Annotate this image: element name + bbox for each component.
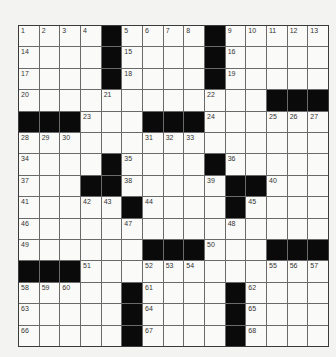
answer-cell[interactable]: 24 (205, 112, 225, 132)
answer-cell[interactable] (164, 219, 184, 239)
answer-cell[interactable] (40, 69, 60, 89)
answer-cell[interactable] (40, 47, 60, 67)
answer-cell[interactable] (205, 133, 225, 153)
answer-cell[interactable] (205, 326, 225, 346)
answer-cell[interactable]: 19 (226, 69, 246, 89)
answer-cell[interactable] (267, 197, 287, 217)
answer-cell[interactable] (81, 283, 101, 303)
answer-cell[interactable] (246, 219, 266, 239)
answer-cell[interactable]: 22 (205, 90, 225, 110)
answer-cell[interactable] (102, 240, 122, 260)
answer-cell[interactable] (267, 133, 287, 153)
answer-cell[interactable]: 25 (267, 112, 287, 132)
answer-cell[interactable] (60, 240, 80, 260)
answer-cell[interactable]: 20 (19, 90, 39, 110)
answer-cell[interactable] (288, 176, 308, 196)
answer-cell[interactable]: 38 (122, 176, 142, 196)
answer-cell[interactable] (81, 69, 101, 89)
answer-cell[interactable]: 50 (205, 240, 225, 260)
answer-cell[interactable]: 41 (19, 197, 39, 217)
answer-cell[interactable]: 55 (267, 261, 287, 281)
answer-cell[interactable] (81, 90, 101, 110)
answer-cell[interactable] (40, 197, 60, 217)
answer-cell[interactable] (164, 283, 184, 303)
answer-cell[interactable] (267, 47, 287, 67)
answer-cell[interactable] (267, 69, 287, 89)
answer-cell[interactable]: 18 (122, 69, 142, 89)
answer-cell[interactable]: 23 (81, 112, 101, 132)
answer-cell[interactable] (226, 112, 246, 132)
answer-cell[interactable] (143, 154, 163, 174)
answer-cell[interactable] (143, 69, 163, 89)
answer-cell[interactable]: 7 (164, 26, 184, 46)
answer-cell[interactable] (184, 154, 204, 174)
answer-cell[interactable] (102, 261, 122, 281)
answer-cell[interactable]: 6 (143, 26, 163, 46)
answer-cell[interactable] (40, 326, 60, 346)
answer-cell[interactable]: 59 (40, 283, 60, 303)
answer-cell[interactable] (122, 240, 142, 260)
answer-cell[interactable]: 15 (122, 47, 142, 67)
answer-cell[interactable] (40, 154, 60, 174)
answer-cell[interactable] (81, 133, 101, 153)
answer-cell[interactable]: 16 (226, 47, 246, 67)
answer-cell[interactable] (164, 47, 184, 67)
answer-cell[interactable] (246, 261, 266, 281)
answer-cell[interactable] (267, 304, 287, 324)
answer-cell[interactable]: 45 (246, 197, 266, 217)
answer-cell[interactable] (308, 154, 328, 174)
answer-cell[interactable] (246, 47, 266, 67)
answer-cell[interactable] (267, 326, 287, 346)
answer-cell[interactable] (205, 304, 225, 324)
answer-cell[interactable] (40, 240, 60, 260)
answer-cell[interactable]: 40 (267, 176, 287, 196)
answer-cell[interactable] (288, 304, 308, 324)
answer-cell[interactable] (122, 261, 142, 281)
answer-cell[interactable]: 37 (19, 176, 39, 196)
answer-cell[interactable] (288, 133, 308, 153)
answer-cell[interactable] (102, 133, 122, 153)
answer-cell[interactable] (226, 90, 246, 110)
answer-cell[interactable] (81, 219, 101, 239)
answer-cell[interactable] (288, 154, 308, 174)
answer-cell[interactable]: 58 (19, 283, 39, 303)
answer-cell[interactable] (184, 283, 204, 303)
answer-cell[interactable] (308, 133, 328, 153)
answer-cell[interactable] (288, 283, 308, 303)
answer-cell[interactable]: 44 (143, 197, 163, 217)
answer-cell[interactable] (267, 219, 287, 239)
answer-cell[interactable]: 66 (19, 326, 39, 346)
answer-cell[interactable]: 9 (226, 26, 246, 46)
answer-cell[interactable]: 46 (19, 219, 39, 239)
answer-cell[interactable] (308, 197, 328, 217)
answer-cell[interactable] (267, 283, 287, 303)
answer-cell[interactable]: 64 (143, 304, 163, 324)
answer-cell[interactable]: 26 (288, 112, 308, 132)
answer-cell[interactable] (288, 47, 308, 67)
answer-cell[interactable] (205, 261, 225, 281)
answer-cell[interactable] (184, 197, 204, 217)
answer-cell[interactable]: 43 (102, 197, 122, 217)
answer-cell[interactable] (308, 69, 328, 89)
answer-cell[interactable] (205, 219, 225, 239)
answer-cell[interactable]: 57 (308, 261, 328, 281)
answer-cell[interactable]: 1 (19, 26, 39, 46)
answer-cell[interactable] (308, 304, 328, 324)
answer-cell[interactable] (288, 219, 308, 239)
answer-cell[interactable] (164, 304, 184, 324)
answer-cell[interactable] (184, 69, 204, 89)
answer-cell[interactable]: 8 (184, 26, 204, 46)
answer-cell[interactable] (308, 326, 328, 346)
answer-cell[interactable] (288, 69, 308, 89)
answer-cell[interactable]: 65 (246, 304, 266, 324)
answer-cell[interactable] (102, 283, 122, 303)
answer-cell[interactable] (308, 47, 328, 67)
answer-cell[interactable]: 13 (308, 26, 328, 46)
answer-cell[interactable] (102, 219, 122, 239)
answer-cell[interactable]: 68 (246, 326, 266, 346)
answer-cell[interactable] (60, 90, 80, 110)
answer-cell[interactable] (81, 47, 101, 67)
answer-cell[interactable]: 30 (60, 133, 80, 153)
answer-cell[interactable]: 34 (19, 154, 39, 174)
answer-cell[interactable] (40, 219, 60, 239)
